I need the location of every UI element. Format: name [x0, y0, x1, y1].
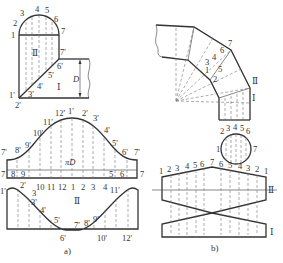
- caption-b: b): [211, 243, 219, 253]
- point-label: 6: [54, 14, 58, 24]
- point-label: 6: [246, 126, 250, 136]
- point-label: 5: [240, 123, 244, 133]
- point-label: 7': [74, 220, 80, 230]
- point-label: 7: [253, 144, 257, 154]
- point-label: 6': [122, 147, 128, 157]
- fig-b-elbow: 1 2 3 4 5 6 7 Ⅱ Ⅰ: [156, 25, 259, 120]
- point-label: 4: [103, 182, 108, 192]
- fig-a-top-view: D Ⅱ Ⅰ 1 2 3 4 5 6 7 1' 2' 3' 4' 5' 6' 7': [9, 4, 90, 110]
- fig-a-pattern-i: πD 7' 8' 9' 10' 11' 12' 1' 2' 3' 4' 5' 6…: [1, 106, 144, 179]
- fig-b-pattern: 1 2 3 4 5 6 7 6 5 4 3 2 1 Ⅱ Ⅰ b): [152, 157, 277, 253]
- point-label: 4': [104, 125, 110, 135]
- point-label: 4': [40, 205, 46, 215]
- point-label: 6: [220, 45, 224, 55]
- point-label: 5: [193, 160, 197, 170]
- point-label: 8': [84, 218, 90, 228]
- pi-d-label: πD: [65, 157, 76, 167]
- point-label: 10': [97, 233, 108, 243]
- point-label: 4: [185, 161, 190, 171]
- point-label: 6: [120, 169, 124, 179]
- point-label: 1: [216, 144, 220, 154]
- point-label: 9: [21, 169, 25, 179]
- point-label: 7: [140, 169, 144, 179]
- point-label: 5': [112, 138, 118, 148]
- point-label: 11': [110, 185, 120, 195]
- point-label: 4': [37, 81, 43, 91]
- point-label: 3: [91, 182, 95, 192]
- point-label: 12': [55, 108, 66, 118]
- point-label: 1: [11, 30, 15, 40]
- point-label: 5: [45, 5, 49, 15]
- point-label: 11': [43, 117, 53, 127]
- point-label: 7: [210, 157, 214, 167]
- part-label-ii: Ⅱ: [74, 196, 80, 206]
- point-label: 12': [122, 233, 133, 243]
- point-label: 7: [61, 26, 65, 36]
- point-label: 5: [218, 64, 222, 74]
- point-label: 3': [93, 113, 99, 123]
- fig-a-pattern-ii: Ⅱ 1' 2' 3 10 11 12 1 2 3 4 11' 3' 4' 5' …: [0, 180, 138, 256]
- technical-drawing: D Ⅱ Ⅰ 1 2 3 4 5 6 7 1' 2' 3' 4' 5' 6' 7'…: [0, 0, 283, 263]
- point-label: 4: [35, 4, 40, 14]
- point-label: 2: [255, 164, 259, 174]
- point-label: 1: [71, 182, 75, 192]
- point-label: 2': [82, 108, 88, 118]
- dimension-d-label: D: [72, 74, 80, 84]
- point-label: 1': [0, 186, 6, 196]
- point-label: 2: [13, 18, 17, 28]
- point-label: 11: [47, 182, 55, 192]
- point-label: 6': [57, 61, 63, 71]
- point-label: 1: [264, 166, 268, 176]
- point-label: 5: [228, 160, 232, 170]
- point-label: 1': [9, 90, 15, 100]
- point-label: 1: [159, 166, 163, 176]
- point-label: 2': [20, 180, 26, 190]
- part-label-i: Ⅰ: [57, 82, 61, 92]
- part-label-i: Ⅰ: [270, 227, 274, 237]
- point-label: 3: [205, 57, 209, 67]
- point-label: 5': [48, 70, 54, 80]
- point-label: 7': [134, 147, 140, 157]
- point-label: 7: [228, 38, 232, 48]
- part-label-ii: Ⅱ: [32, 48, 38, 58]
- point-label: 9': [25, 140, 31, 150]
- point-label: 6: [219, 159, 223, 169]
- point-label: 3': [28, 89, 34, 99]
- point-label: 7: [1, 169, 5, 179]
- caption-a: a): [64, 246, 71, 256]
- point-label: 3': [31, 197, 37, 207]
- point-label: 4: [212, 52, 217, 62]
- point-label: 2: [167, 164, 171, 174]
- point-label: 7': [1, 147, 7, 157]
- point-label: 7': [60, 47, 66, 57]
- part-label-i: Ⅰ: [252, 93, 256, 103]
- point-label: 3: [246, 163, 250, 173]
- point-label: 6: [200, 159, 204, 169]
- point-label: 3: [20, 8, 24, 18]
- point-label: 12: [58, 182, 67, 192]
- point-label: 2: [213, 74, 217, 84]
- part-label-ii: Ⅱ: [252, 76, 258, 86]
- point-label: 3: [226, 123, 230, 133]
- point-label: 10': [33, 128, 44, 138]
- point-label: 1': [68, 106, 74, 116]
- fig-b-circle: 1 2 3 4 5 6 7: [216, 122, 257, 164]
- point-label: 3: [175, 163, 179, 173]
- point-label: 5: [109, 169, 113, 179]
- point-label: 9': [93, 214, 99, 224]
- point-label: 2': [15, 100, 21, 110]
- point-label: 2: [220, 126, 224, 136]
- point-label: 4: [233, 122, 238, 132]
- point-label: 6': [60, 233, 66, 243]
- point-label: 2: [81, 182, 85, 192]
- point-label: 10: [36, 182, 45, 192]
- point-label: 8: [11, 169, 15, 179]
- drawing-canvas: D Ⅱ Ⅰ 1 2 3 4 5 6 7 1' 2' 3' 4' 5' 6' 7'…: [0, 0, 283, 263]
- point-label: 8': [15, 145, 21, 155]
- part-label-ii: Ⅱ: [268, 185, 274, 195]
- point-label: 5': [54, 215, 60, 225]
